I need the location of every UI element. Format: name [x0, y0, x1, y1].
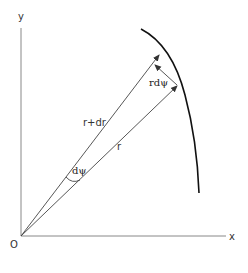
- y-axis-label: y: [18, 11, 24, 22]
- polar-curve: [141, 29, 199, 193]
- r-plus-dr-label: r+dr: [83, 117, 107, 128]
- vector-r-plus-dr: [21, 55, 159, 236]
- polar-diagram: y x O r+dr r rdψ dψ: [0, 0, 248, 273]
- r-label: r: [117, 141, 122, 152]
- angle-label: dψ: [72, 165, 86, 176]
- angle-arc: [66, 177, 80, 181]
- arc-length-label: rdψ: [149, 77, 168, 88]
- vector-r: [21, 86, 177, 236]
- origin-label: O: [10, 239, 18, 250]
- diagram-canvas: y x O r+dr r rdψ dψ: [0, 0, 248, 273]
- x-axis-label: x: [229, 231, 235, 242]
